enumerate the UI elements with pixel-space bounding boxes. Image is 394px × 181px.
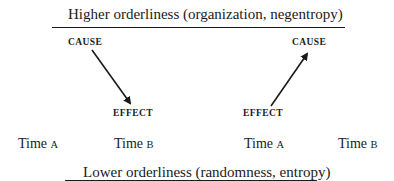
right-time-b-prefix: Time: [338, 136, 367, 151]
right-time-b-letter: B: [371, 139, 378, 150]
left-effect-label: EFFECT: [113, 108, 153, 118]
left-time-b-prefix: Time: [114, 136, 143, 151]
right-effect-label: EFFECT: [243, 108, 283, 118]
right-causal-arrow: [271, 54, 307, 106]
right-time-b: Time B: [338, 136, 378, 153]
right-cause-label: CAUSE: [292, 37, 326, 47]
right-time-a: Time A: [244, 136, 284, 153]
left-time-a: Time A: [18, 136, 58, 153]
bottom-heading: Lower orderliness (randomness, entropy): [83, 164, 330, 180]
bottom-heading-text: Lower orderliness (randomness, entropy): [83, 164, 330, 180]
left-time-b-letter: B: [147, 139, 154, 150]
left-time-a-letter: A: [51, 139, 59, 150]
bottom-heading-rule: [65, 180, 317, 181]
right-time-a-letter: A: [277, 139, 285, 150]
left-time-a-prefix: Time: [18, 136, 47, 151]
left-causal-arrow: [92, 50, 130, 103]
arrows-layer: [0, 0, 394, 181]
right-time-a-prefix: Time: [244, 136, 273, 151]
left-cause-label: CAUSE: [68, 37, 102, 47]
left-time-b: Time B: [114, 136, 154, 153]
